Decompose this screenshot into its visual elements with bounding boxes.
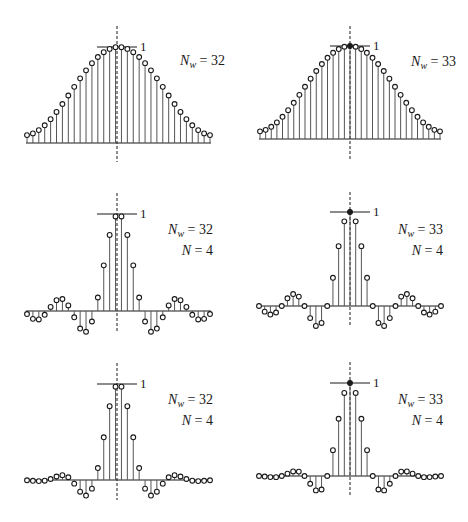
stem-marker [433, 474, 438, 479]
stem-marker [432, 127, 437, 132]
stem-marker [107, 47, 112, 52]
stem-marker [31, 131, 36, 136]
stem-marker [48, 304, 53, 309]
stem-marker [387, 316, 392, 321]
window-length-label: Nw = 33 [410, 54, 456, 71]
stem-marker [296, 469, 301, 474]
stem-marker [202, 131, 207, 136]
stem-marker [303, 84, 308, 89]
stem-marker [404, 100, 409, 105]
stem-marker [101, 435, 106, 440]
stem-marker [382, 488, 387, 493]
stem-marker [60, 473, 65, 478]
stem-marker [291, 100, 296, 105]
stem-marker [42, 312, 47, 317]
stem-marker [370, 55, 375, 60]
stem-marker [54, 110, 59, 115]
stem-marker [325, 304, 330, 309]
stem-marker [280, 114, 285, 119]
stem-marker [319, 321, 324, 326]
stem-marker [178, 474, 183, 479]
stem-marker [376, 487, 381, 492]
stem-marker [439, 474, 444, 479]
stem-marker [342, 391, 347, 396]
stem-marker [95, 466, 100, 471]
stem-marker [325, 55, 330, 60]
stem-marker [113, 214, 118, 219]
stem-marker [31, 316, 36, 321]
stem-marker [66, 303, 71, 308]
stem-marker [190, 123, 195, 128]
stem-marker [202, 478, 207, 483]
stem-marker [331, 448, 336, 453]
stem-marker [370, 304, 375, 309]
stem-marker [359, 244, 364, 249]
stem-marker [208, 133, 213, 138]
stem-marker [342, 219, 347, 224]
stem-marker [274, 310, 279, 315]
stem-marker [359, 416, 364, 421]
stem-marker [325, 474, 330, 479]
sinc-parameter-label: N = 4 [411, 413, 443, 428]
stem-marker [42, 123, 47, 128]
stem-marker [119, 384, 124, 389]
stem-marker [160, 315, 165, 320]
figure-canvas: 1Nw = 321Nw = 331Nw = 32N = 41Nw = 33N =… [0, 0, 468, 522]
stem-marker [66, 93, 71, 98]
stem-marker [78, 489, 83, 494]
stem-marker [291, 469, 296, 474]
stem-marker [101, 263, 106, 268]
stem-marker [426, 124, 431, 129]
stem-marker [178, 110, 183, 115]
stem-marker [319, 487, 324, 492]
sinc-parameter-label: N = 4 [181, 413, 213, 428]
stem-marker [359, 47, 364, 52]
stem-marker [154, 489, 159, 494]
stem-marker [31, 478, 36, 483]
stem-marker [184, 477, 189, 482]
stem-marker [48, 477, 53, 482]
stem-marker [336, 244, 341, 249]
stem-marker [149, 68, 154, 73]
stem-marker [84, 329, 89, 334]
stem-marker [25, 312, 30, 317]
stem-marker [399, 294, 404, 299]
stem-marker [154, 326, 159, 331]
stem-marker [125, 233, 130, 238]
window-length-label: Nw = 33 [397, 392, 443, 409]
stem-marker [268, 475, 273, 480]
stem-marker [302, 304, 307, 309]
stem-marker [364, 50, 369, 55]
stem-marker [101, 50, 106, 55]
stem-marker [313, 324, 318, 329]
window-length-label: Nw = 33 [397, 222, 443, 239]
stem-marker [258, 129, 263, 134]
stem-marker [166, 303, 171, 308]
stem-marker [353, 219, 358, 224]
stem-marker [143, 319, 148, 324]
stem-marker [178, 298, 183, 303]
stem-marker [172, 473, 177, 478]
stem-marker [404, 292, 409, 297]
stem-marker [439, 304, 444, 309]
stem-marker [376, 321, 381, 326]
stem-marker [113, 45, 118, 50]
stem-marker [410, 471, 415, 476]
stem-marker [113, 384, 118, 389]
stem-marker [279, 474, 284, 479]
stem-marker [72, 84, 77, 89]
stem-marker [60, 297, 65, 302]
stem-marker [263, 127, 268, 132]
stem-marker [348, 210, 353, 215]
stem-marker [166, 93, 171, 98]
stem-marker [416, 474, 421, 479]
panel-bottom-right: 1Nw = 33N = 4 [257, 362, 444, 497]
stem-marker [95, 55, 100, 60]
sinc-parameter-label: N = 4 [411, 243, 443, 258]
stem-marker [137, 295, 142, 300]
panel-middle-right: 1Nw = 33N = 4 [257, 192, 444, 328]
stem-marker [415, 114, 420, 119]
stem-marker [313, 488, 318, 493]
stem-marker [196, 128, 201, 133]
stem-marker [48, 117, 53, 122]
